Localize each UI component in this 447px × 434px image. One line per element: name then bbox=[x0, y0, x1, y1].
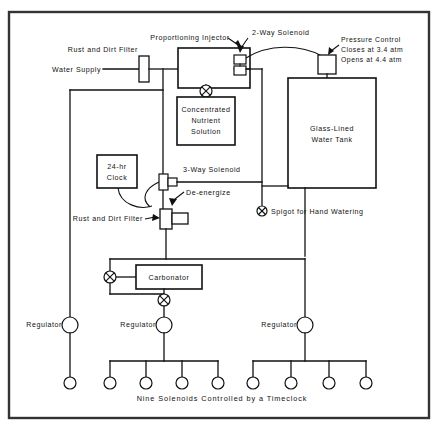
solenoid-outlet-3 bbox=[140, 377, 152, 389]
water-supply-label-line2: Water Supply bbox=[52, 66, 101, 74]
lower-filter-label: Rust and Dirt Filter bbox=[73, 215, 143, 223]
three-way-control-wire bbox=[145, 182, 159, 207]
spigot-label: Spigot for Hand Watering bbox=[271, 208, 364, 216]
solenoid-outlet-6 bbox=[247, 377, 259, 389]
spigot-valve-symbol bbox=[257, 206, 267, 216]
diagram-caption: Nine Solenoids Controlled by a Timeclock bbox=[137, 394, 308, 403]
nutrient-label-line1: Concentrated bbox=[181, 106, 230, 114]
solenoid-outlet-9 bbox=[360, 377, 372, 389]
solenoid-outlet-4 bbox=[176, 377, 188, 389]
pressure-control-body bbox=[318, 55, 336, 74]
regulator-left-label: Regulator bbox=[26, 321, 62, 329]
solenoid-outlet-2 bbox=[104, 377, 116, 389]
pressure-control-label-line3: Opens at 4.4 atm bbox=[341, 56, 402, 64]
clock-body bbox=[97, 155, 137, 188]
carbonator-inlet-valve bbox=[104, 271, 116, 283]
carbonator-label: Carbonator bbox=[149, 274, 190, 282]
glass-lined-water-tank bbox=[288, 78, 376, 188]
regulator-left bbox=[62, 317, 78, 333]
supply-filter-body bbox=[139, 56, 149, 82]
regulator-right bbox=[297, 317, 313, 333]
solenoid-outlet-1 bbox=[64, 377, 76, 389]
regulator-center-label: Regulator bbox=[120, 321, 156, 329]
two-way-solenoid-label: 2-Way Solenoid bbox=[252, 29, 310, 37]
pressure-control-label-line2: Closes at 3.4 atm bbox=[341, 46, 403, 53]
proportioning-injector-label: Proportioning Injector bbox=[150, 34, 230, 42]
schematic-canvas: Concentrated Nutrient Solution Glass-Lin… bbox=[0, 0, 447, 434]
injector-nutrient-valve bbox=[200, 85, 212, 97]
carbonator-outlet-valve bbox=[158, 294, 170, 306]
pressure-control-signal-line bbox=[246, 47, 322, 58]
tank-label-line1: Glass-Lined bbox=[310, 125, 354, 133]
pressure-control-leader-arrow bbox=[328, 47, 334, 55]
de-energize-leader-arrow bbox=[169, 198, 177, 206]
three-way-solenoid-symbol bbox=[159, 174, 177, 190]
schematic-diagram: Concentrated Nutrient Solution Glass-Lin… bbox=[0, 0, 447, 434]
solenoid-outlet-7 bbox=[285, 377, 297, 389]
de-energize-label: De-energize bbox=[186, 189, 231, 197]
three-way-solenoid-label: 3-Way Solenoid bbox=[183, 166, 241, 174]
regulator-right-label: Regulator bbox=[261, 321, 297, 329]
lower-filter-body bbox=[160, 209, 188, 229]
lower-filter-leader-arrow bbox=[152, 214, 160, 221]
tank-label-line2: Water Tank bbox=[312, 136, 353, 144]
nutrient-label-line2: Nutrient bbox=[191, 117, 220, 125]
pressure-control-label-line1: Pressure Control bbox=[341, 36, 401, 43]
regulator-center bbox=[156, 317, 172, 333]
water-supply-label-line1: Rust and Dirt Filter bbox=[68, 46, 138, 54]
clock-label-line1: 24-hr bbox=[107, 163, 126, 171]
solenoid-outlet-5 bbox=[212, 377, 224, 389]
de-energize-leader-line bbox=[175, 192, 184, 199]
nutrient-label-line3: Solution bbox=[191, 128, 221, 136]
clock-label-line2: Clock bbox=[107, 174, 128, 182]
solenoid-outlet-8 bbox=[323, 377, 335, 389]
